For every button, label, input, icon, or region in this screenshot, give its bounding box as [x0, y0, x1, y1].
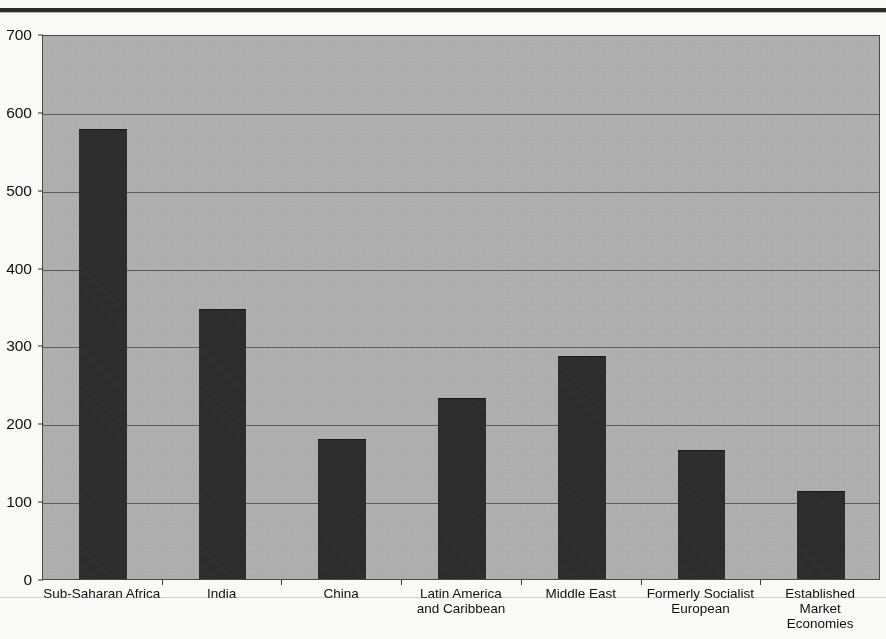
- x-tick-mark-4: [641, 580, 642, 585]
- y-tick-mark-100: [38, 502, 43, 503]
- x-tick-label-6: Established Market Economies: [760, 586, 880, 631]
- y-tick-mark-600: [38, 112, 43, 113]
- x-tick-mark-3: [521, 580, 522, 585]
- x-tick-mark-2: [401, 580, 402, 585]
- y-tick-label-600: 600: [0, 104, 32, 122]
- y-tick-mark-200: [38, 424, 43, 425]
- y-axis: 0100200300400500600700: [0, 35, 38, 580]
- y-tick-label-400: 400: [0, 260, 32, 278]
- scanned-page: 0100200300400500600700 Sub-Saharan Afric…: [0, 0, 886, 639]
- y-tick-label-100: 100: [0, 493, 32, 511]
- bar-1[interactable]: [199, 309, 247, 579]
- bar-4[interactable]: [558, 356, 606, 579]
- bar-series-layer: [43, 36, 879, 579]
- y-tick-mark-300: [38, 346, 43, 347]
- x-tick-label-5: Formerly Socialist European: [641, 586, 761, 616]
- page-top-rule: [0, 8, 886, 12]
- x-tick-mark-5: [760, 580, 761, 585]
- y-tick-label-500: 500: [0, 182, 32, 200]
- bar-3[interactable]: [438, 398, 486, 579]
- x-axis-labels: Sub-Saharan AfricaIndiaChinaLatin Americ…: [42, 586, 880, 639]
- y-tick-mark-700: [38, 35, 43, 36]
- x-tick-mark-1: [281, 580, 282, 585]
- bar-6[interactable]: [797, 491, 845, 579]
- y-tick-label-200: 200: [0, 415, 32, 433]
- bar-0[interactable]: [79, 129, 127, 579]
- y-tick-mark-0: [38, 580, 43, 581]
- y-tick-label-0: 0: [0, 571, 32, 589]
- bar-5[interactable]: [678, 450, 726, 580]
- x-tick-label-4: Middle East: [521, 586, 641, 601]
- x-tick-label-1: India: [162, 586, 282, 601]
- page-bottom-rule: [0, 597, 886, 598]
- x-tick-mark-0: [162, 580, 163, 585]
- y-tick-label-700: 700: [0, 26, 32, 44]
- x-tick-label-0: Sub-Saharan Africa: [42, 586, 162, 601]
- y-tick-label-300: 300: [0, 337, 32, 355]
- bar-2[interactable]: [318, 439, 366, 579]
- x-tick-label-3: Latin America and Caribbean: [401, 586, 521, 616]
- y-tick-mark-500: [38, 190, 43, 191]
- chart-plot-area: [42, 35, 880, 580]
- x-tick-label-2: China: [281, 586, 401, 601]
- y-tick-mark-400: [38, 268, 43, 269]
